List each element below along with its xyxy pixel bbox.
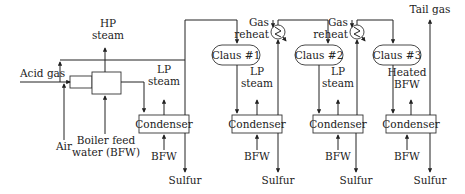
burner: [70, 76, 92, 88]
sulfur-3-label: Sulfur: [340, 174, 374, 186]
condenser-1-group: Condenser LPsteam BFW Sulfur: [135, 20, 202, 186]
sulfur-2-label: Sulfur: [262, 174, 296, 186]
condenser-3-label: Condenser: [309, 118, 367, 130]
feed-to-claus-1: [185, 20, 237, 43]
reheat-1-label: Gasreheat: [234, 16, 269, 40]
condenser-4-label: Condenser: [382, 118, 440, 130]
reheat-1-out: [283, 37, 286, 41]
sulfur-1-label: Sulfur: [169, 174, 203, 186]
bfw-1-label: BFW: [151, 150, 177, 162]
hp-steam-label: HPsteam: [92, 17, 124, 41]
waste-heat-boiler: [92, 72, 121, 94]
bfw-4-label: BFW: [394, 150, 420, 162]
lp-steam-2-label: LPsteam: [241, 65, 273, 89]
claus-3-label: Claus #3: [373, 49, 422, 61]
claus-1-label: Claus #1: [212, 49, 261, 61]
lp-steam-1-label: LPsteam: [148, 63, 180, 87]
condenser-2-label: Condenser: [228, 118, 286, 130]
air-label: Air: [55, 140, 73, 152]
claus-2-label: Claus #2: [295, 49, 344, 61]
sulfur-4-label: Sulfur: [414, 174, 448, 186]
bfw-2-label: BFW: [244, 150, 270, 162]
boiler-to-condenser-line: [121, 82, 144, 112]
tail-gas-label: Tail gas: [410, 3, 451, 15]
heated-bfw-label: HeatedBFW: [388, 66, 427, 90]
reheat-2-out: [362, 37, 365, 41]
reheater-2: [350, 20, 393, 43]
condenser-1-label: Condenser: [135, 118, 193, 130]
bfw-3-label: BFW: [325, 150, 351, 162]
lp-steam-3-label: LPsteam: [322, 65, 354, 89]
acid-gas-label: Acid gas: [19, 67, 65, 79]
bfw-boiler-label: Boiler feedwater (BFW): [72, 134, 140, 158]
process-flow-diagram: HPsteam Acid gas Air Boiler feedwater (B…: [0, 0, 465, 194]
